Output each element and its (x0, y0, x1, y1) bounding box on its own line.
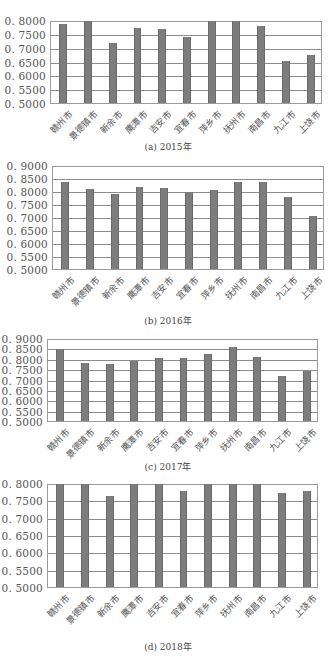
bar-8 (253, 357, 261, 421)
x-tick-label: 抚州市 (217, 426, 245, 454)
x-tick-label: 吉安市 (148, 274, 176, 302)
y-tick-label: 0. 8000 (0, 16, 46, 26)
bar-1 (81, 484, 89, 587)
y-tick-label: 0. 8000 (2, 187, 48, 197)
bar-8 (259, 182, 267, 269)
gridline (53, 179, 323, 180)
x-tick-label: 宜春市 (171, 108, 199, 136)
bar-7 (234, 182, 242, 269)
x-tick-label: 鹰潭市 (118, 592, 146, 620)
bar-5 (180, 358, 188, 421)
bar-10 (303, 491, 311, 587)
bar-6 (208, 21, 216, 103)
x-tick-label: 九江市 (272, 274, 300, 302)
bar-2 (106, 496, 114, 587)
x-tick-label: 抚州市 (217, 592, 245, 620)
bar-1 (81, 363, 89, 421)
plot-area (47, 339, 318, 422)
bar-1 (84, 21, 92, 103)
bar-7 (229, 347, 237, 421)
y-tick-label: 0. 6000 (0, 396, 43, 406)
y-tick-label: 0. 5000 (0, 583, 43, 593)
bar-4 (155, 484, 163, 587)
chart-caption: (b) 2016年 (0, 314, 336, 327)
x-tick-label: 宜春市 (167, 426, 195, 454)
bar-9 (278, 376, 286, 421)
x-tick-label: 南昌市 (247, 274, 275, 302)
x-tick-label: 宜春市 (173, 274, 201, 302)
bar-7 (229, 484, 237, 587)
y-tick-label: 0. 6000 (0, 548, 43, 558)
x-tick-label: 上饶市 (291, 426, 319, 454)
x-tick-label: 新余市 (94, 426, 122, 454)
bar-7 (232, 21, 240, 103)
bar-10 (307, 55, 315, 103)
bar-6 (204, 354, 212, 421)
bar-0 (56, 484, 64, 587)
y-tick-label: 0. 9000 (2, 161, 48, 171)
bar-4 (160, 188, 168, 269)
x-tick-label: 吉安市 (143, 592, 171, 620)
y-tick-label: 0. 6000 (2, 239, 48, 249)
bar-2 (109, 43, 117, 103)
y-tick-label: 0. 6500 (0, 58, 46, 68)
x-tick-label: 鹰潭市 (121, 108, 149, 136)
y-tick-label: 0. 7500 (0, 365, 43, 375)
plot-area (52, 166, 324, 270)
y-tick-label: 0. 6500 (0, 531, 43, 541)
y-tick-label: 0. 5000 (0, 99, 46, 109)
x-tick-label: 萍乡市 (196, 108, 224, 136)
chart-caption: (a) 2015年 (0, 140, 336, 153)
x-tick-label: 上饶市 (297, 274, 325, 302)
plot-area (47, 484, 318, 588)
x-tick-label: 萍乡市 (192, 592, 220, 620)
y-tick-label: 0. 5000 (0, 417, 43, 427)
bar-9 (284, 197, 292, 269)
x-tick-label: 吉安市 (143, 426, 171, 454)
bar-10 (303, 371, 311, 421)
x-tick-label: 九江市 (266, 426, 294, 454)
x-tick-label: 抚州市 (222, 274, 250, 302)
bar-2 (111, 194, 119, 269)
y-tick-label: 0. 7500 (2, 200, 48, 210)
bar-4 (158, 29, 166, 103)
bar-6 (204, 484, 212, 587)
x-tick-label: 九江市 (270, 108, 298, 136)
y-tick-label: 0. 7500 (0, 30, 46, 40)
bar-6 (210, 190, 218, 269)
x-tick-label: 上饶市 (295, 108, 323, 136)
x-tick-label: 萍乡市 (192, 426, 220, 454)
bar-0 (59, 24, 67, 103)
bar-3 (134, 28, 142, 103)
bar-3 (130, 484, 138, 587)
x-tick-label: 上饶市 (291, 592, 319, 620)
x-tick-label: 抚州市 (220, 108, 248, 136)
y-tick-label: 0. 8500 (2, 174, 48, 184)
y-tick-label: 0. 6000 (0, 71, 46, 81)
bar-5 (185, 192, 193, 269)
gridline (48, 349, 317, 350)
chart-caption: (d) 2018年 (0, 640, 336, 653)
bar-5 (180, 491, 188, 587)
bar-9 (278, 493, 286, 587)
y-tick-label: 0. 5000 (2, 265, 48, 275)
y-tick-label: 0. 5500 (0, 566, 43, 576)
y-tick-label: 0. 8500 (0, 344, 43, 354)
x-tick-label: 鹰潭市 (118, 426, 146, 454)
x-tick-label: 新余市 (97, 108, 125, 136)
bar-2 (106, 364, 114, 421)
bar-10 (309, 216, 317, 269)
y-tick-label: 0. 7000 (0, 44, 46, 54)
bar-5 (183, 37, 191, 103)
bar-4 (155, 358, 163, 421)
y-tick-label: 0. 6500 (2, 226, 48, 236)
y-tick-label: 0. 7000 (0, 514, 43, 524)
bar-8 (253, 484, 261, 587)
x-tick-label: 宜春市 (167, 592, 195, 620)
chart-caption: (c) 2017年 (0, 460, 336, 473)
x-tick-label: 南昌市 (245, 108, 273, 136)
y-tick-label: 0. 7500 (0, 496, 43, 506)
bar-8 (257, 26, 265, 103)
y-tick-label: 0. 7000 (0, 376, 43, 386)
bar-0 (61, 182, 69, 269)
